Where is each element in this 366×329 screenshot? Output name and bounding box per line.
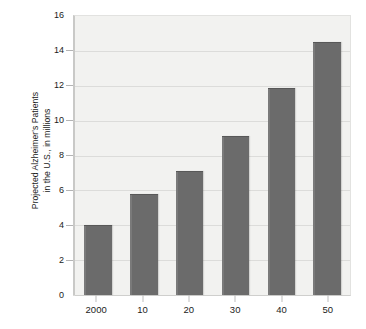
x-tick-label: 30: [230, 304, 241, 315]
x-axis-ticks: 20001020304050: [73, 295, 351, 325]
y-tick-mark: [66, 85, 73, 86]
y-tick-label: 16: [44, 10, 64, 20]
y-tick-label: 0: [44, 290, 64, 300]
bar-chart-figure: Projected Alzheimer's Patients in the U.…: [0, 0, 366, 329]
x-tick-mark: [235, 295, 236, 302]
bars-layer: [75, 16, 350, 295]
y-axis-tick-labels: 16 14 12 10 8 6 4 2 0: [44, 15, 64, 295]
y-axis-title-line-1: Projected Alzheimer's Patients: [31, 91, 43, 208]
bar: [313, 42, 341, 295]
x-tick-label: 2000: [86, 304, 107, 315]
x-tick-label: 50: [323, 304, 334, 315]
y-tick-mark: [66, 190, 73, 191]
y-tick-mark: [66, 155, 73, 156]
bar: [84, 225, 112, 295]
bar: [176, 171, 204, 295]
x-tick-mark: [96, 295, 97, 302]
x-tick-mark: [327, 295, 328, 302]
bar: [268, 88, 296, 296]
x-tick-mark: [188, 295, 189, 302]
x-tick-mark: [142, 295, 143, 302]
x-tick-label: 10: [137, 304, 148, 315]
y-axis-tick-marks: [66, 15, 73, 295]
y-tick-mark: [66, 260, 73, 261]
y-tick-label: 4: [44, 220, 64, 230]
bar: [130, 194, 158, 295]
y-tick-label: 12: [44, 80, 64, 90]
y-tick-label: 14: [44, 45, 64, 55]
y-tick-mark: [66, 50, 73, 51]
bar: [222, 136, 250, 295]
y-tick-label: 10: [44, 115, 64, 125]
y-tick-label: 6: [44, 185, 64, 195]
x-tick-label: 40: [276, 304, 287, 315]
plot-area: [73, 15, 351, 295]
y-tick-label: 2: [44, 255, 64, 265]
x-tick-mark: [281, 295, 282, 302]
y-tick-label: 8: [44, 150, 64, 160]
y-tick-mark: [66, 225, 73, 226]
y-tick-mark: [66, 120, 73, 121]
x-tick-label: 20: [184, 304, 195, 315]
